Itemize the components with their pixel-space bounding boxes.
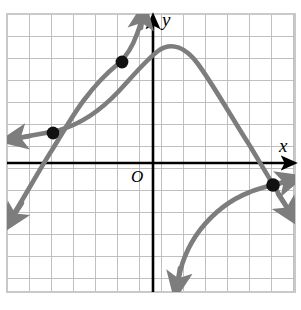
y-axis-label: y — [160, 9, 171, 30]
point-1 — [47, 127, 60, 140]
coordinate-plane-svg: y x O — [0, 0, 301, 310]
origin-label: O — [131, 167, 143, 186]
graph-figure: y x O — [0, 0, 301, 310]
parabola-arrow-left — [13, 136, 30, 139]
point-3 — [266, 178, 280, 192]
cubic-arrow-upper — [141, 15, 143, 28]
x-axis-label: x — [278, 135, 288, 156]
point-2 — [116, 56, 129, 69]
lower-branch-arrow-down — [177, 268, 180, 286]
